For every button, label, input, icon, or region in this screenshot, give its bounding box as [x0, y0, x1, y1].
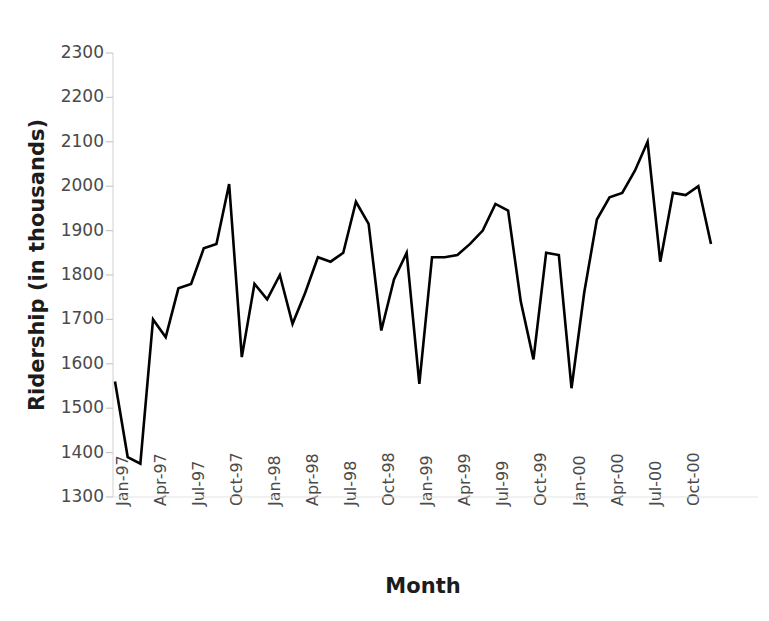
axis-ticks: [106, 53, 113, 497]
ridership-line-chart: Ridership (in thousands) 230022002100200…: [0, 0, 769, 621]
axis-lines: [113, 53, 758, 497]
ridership-series-line: [115, 142, 711, 464]
x-axis-title: Month: [113, 574, 733, 598]
plot-area: [0, 0, 769, 621]
